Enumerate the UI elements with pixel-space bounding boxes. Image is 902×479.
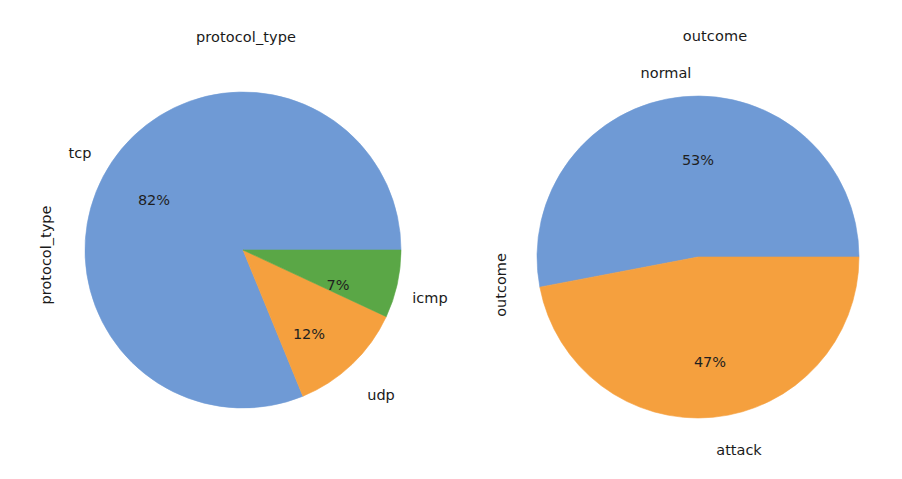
percent-label-normal: 53% [682, 152, 714, 168]
wedge-label-udp: udp [367, 387, 395, 403]
left-chart-title: protocol_type [196, 29, 296, 45]
figure-canvas: protocol_type protocol_type tcp udp icmp… [0, 0, 902, 479]
wedge-label-tcp: tcp [69, 145, 92, 161]
wedge-label-icmp: icmp [412, 290, 447, 306]
percent-label-tcp: 82% [138, 192, 170, 208]
percent-label-attack: 47% [694, 354, 726, 370]
left-chart-y-axis-label: protocol_type [38, 206, 54, 305]
wedge-label-attack: attack [716, 442, 762, 458]
percent-label-icmp: 7% [326, 277, 349, 293]
panel-outcome: outcome outcome normal attack 53% 47% [451, 0, 902, 479]
right-chart-y-axis-label: outcome [493, 253, 509, 317]
panel-protocol-type: protocol_type protocol_type tcp udp icmp… [0, 0, 451, 479]
wedge-label-normal: normal [641, 65, 692, 81]
percent-label-udp: 12% [293, 326, 325, 342]
right-chart-title: outcome [683, 28, 747, 44]
